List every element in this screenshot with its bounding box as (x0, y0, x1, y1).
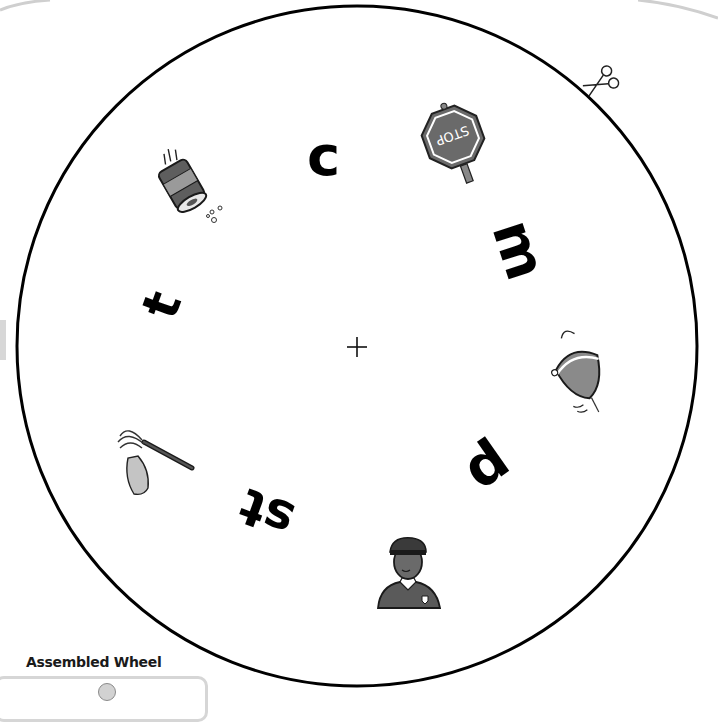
assembled-wheel-caption: Assembled Wheel (26, 654, 162, 670)
wheel-fastener-icon (98, 683, 116, 701)
wheel-letter: c (307, 128, 340, 184)
